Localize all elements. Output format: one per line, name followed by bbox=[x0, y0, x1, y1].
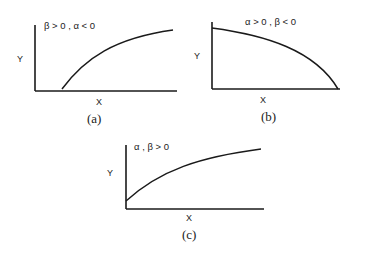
panel-c-condition: α , β > 0 bbox=[134, 142, 169, 152]
panel-b-condition: α > 0 , β < 0 bbox=[245, 17, 296, 27]
panel-a-plot bbox=[35, 25, 177, 91]
panel-a-caption: (a) bbox=[87, 112, 101, 125]
panel-c-caption: (c) bbox=[182, 228, 196, 241]
diagram-canvas bbox=[0, 0, 365, 257]
panel-a-y-label: Y bbox=[17, 55, 23, 64]
panel-b-plot bbox=[212, 22, 340, 89]
panel-c-y-label: Y bbox=[107, 169, 113, 178]
panel-a-condition: β > 0 , α < 0 bbox=[44, 21, 95, 31]
panel-c-curve bbox=[126, 149, 261, 201]
panel-c-plot bbox=[126, 145, 264, 209]
panel-b-caption: (b) bbox=[261, 110, 276, 123]
panel-a-curve bbox=[62, 30, 173, 89]
panel-b-y-label: Y bbox=[194, 52, 200, 61]
panel-b-curve bbox=[212, 28, 338, 89]
panel-c-x-label: X bbox=[186, 214, 192, 223]
panel-b-x-label: X bbox=[260, 96, 266, 105]
panel-a-x-label: X bbox=[96, 98, 102, 107]
